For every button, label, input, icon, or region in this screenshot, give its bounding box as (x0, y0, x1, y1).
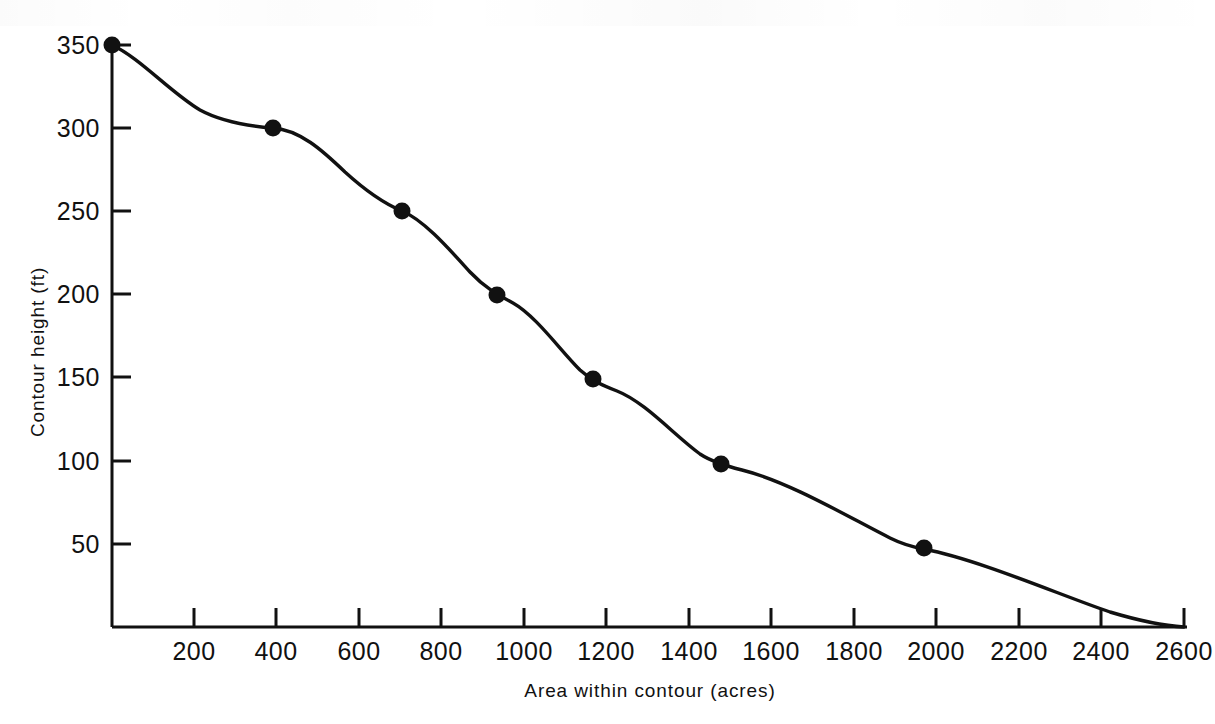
x-tick-label-1800: 1800 (825, 637, 883, 665)
data-point-390-300 (265, 120, 282, 137)
x-tick-label-1200: 1200 (577, 637, 635, 665)
x-tick-label-400: 400 (254, 637, 297, 665)
data-point-2005-50 (916, 540, 933, 557)
y-tick-label-350: 350 (57, 31, 100, 59)
x-tick-label-2200: 2200 (990, 637, 1048, 665)
y-tick-label-250: 250 (57, 197, 100, 225)
data-point-951-200 (489, 287, 506, 304)
chart-figure: 350 300 250 200 150 100 50 200 (0, 0, 1215, 724)
data-point-1188-150 (585, 371, 602, 388)
x-tick-label-2600: 2600 (1155, 637, 1213, 665)
data-point-0-350 (104, 37, 121, 54)
x-tick-label-1600: 1600 (742, 637, 800, 665)
x-tick-label-1400: 1400 (660, 637, 718, 665)
y-axis-title: Contour height (ft) (27, 267, 48, 437)
x-axis-title: Area within contour (acres) (524, 680, 775, 701)
x-tick-label-800: 800 (419, 637, 462, 665)
x-tick-label-600: 600 (337, 637, 380, 665)
y-tick-label-50: 50 (71, 530, 100, 558)
data-point-1504-100 (713, 456, 730, 473)
data-point-716-250 (394, 203, 411, 220)
y-tick-label-300: 300 (57, 114, 100, 142)
contour-height-area-line-chart: 350 300 250 200 150 100 50 200 (0, 0, 1215, 724)
x-tick-label-200: 200 (172, 637, 215, 665)
x-tick-label-1000: 1000 (495, 637, 553, 665)
y-tick-label-200: 200 (57, 280, 100, 308)
y-tick-label-100: 100 (57, 447, 100, 475)
y-tick-label-150: 150 (57, 363, 100, 391)
x-tick-label-2000: 2000 (907, 637, 965, 665)
x-tick-label-2400: 2400 (1072, 637, 1130, 665)
